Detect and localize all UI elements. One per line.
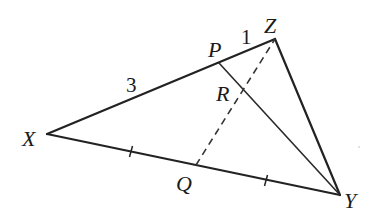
label-z: Z — [264, 13, 277, 38]
triangle-diagram: X Z Y P Q R 3 1 — [0, 0, 381, 221]
scan-speck — [358, 146, 360, 148]
label-r: R — [215, 81, 230, 106]
segment-py — [219, 63, 340, 195]
label-q: Q — [176, 171, 192, 196]
label-x: X — [21, 126, 37, 151]
length-label-pz: 1 — [241, 25, 252, 49]
segment-zy — [275, 39, 340, 195]
label-y: Y — [344, 188, 359, 213]
length-label-xp: 3 — [126, 73, 137, 97]
label-p: P — [207, 37, 221, 62]
segment-xy — [47, 134, 340, 195]
